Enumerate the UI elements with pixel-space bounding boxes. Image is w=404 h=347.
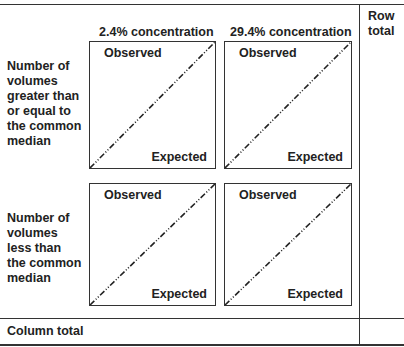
observed-label: Observed	[239, 46, 297, 60]
top-rule	[0, 4, 404, 5]
cell-greater-2-4: Observed Expected	[89, 41, 216, 169]
row-total-line-2: total	[368, 24, 394, 39]
row-label-line: the common	[7, 256, 81, 271]
row-label-line: Number of	[7, 59, 81, 74]
row-label-greater-equal-median: Number of volumes greater than or equal …	[7, 59, 81, 149]
column-total-rule	[0, 318, 404, 319]
row-total-line-1: Row	[368, 9, 394, 24]
cell-less-29-4: Observed Expected	[224, 183, 352, 306]
expected-label: Expected	[287, 150, 343, 164]
expected-label: Expected	[287, 287, 343, 301]
observed-label: Observed	[104, 188, 162, 202]
row-label-line: the common	[7, 119, 81, 134]
column-header-2-4-percent: 2.4% concentration	[99, 25, 214, 39]
row-label-line: Number of	[7, 211, 81, 226]
row-label-line: greater than	[7, 89, 81, 104]
row-label-line: median	[7, 134, 81, 149]
observed-label: Observed	[104, 46, 162, 60]
cell-less-2-4: Observed Expected	[89, 183, 216, 306]
row-label-line: or equal to	[7, 104, 81, 119]
column-header-row-total: Row total	[368, 9, 394, 39]
bottom-rule	[0, 344, 404, 346]
cell-greater-29-4: Observed Expected	[224, 41, 352, 169]
row-label-less-than-median: Number of volumes less than the common m…	[7, 211, 81, 286]
expected-label: Expected	[151, 287, 207, 301]
column-total-label: Column total	[7, 324, 83, 339]
observed-label: Observed	[239, 188, 297, 202]
row-label-line: volumes	[7, 226, 81, 241]
row-label-line: median	[7, 271, 81, 286]
row-label-line: volumes	[7, 74, 81, 89]
expected-label: Expected	[151, 150, 207, 164]
row-total-divider	[359, 4, 360, 345]
column-header-29-4-percent: 29.4% concentration	[230, 25, 352, 39]
row-label-line: less than	[7, 241, 81, 256]
